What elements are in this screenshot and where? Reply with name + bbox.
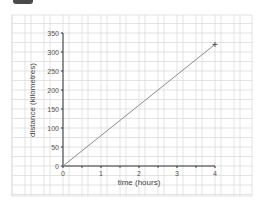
y-tick-label: 150 [47,106,59,113]
x-tick-label: 3 [175,170,179,177]
y-tick-label: 300 [47,49,59,56]
y-tick-label: 50 [51,144,59,151]
x-tick-label: 4 [213,170,217,177]
y-tick-label: 200 [47,87,59,94]
distance-time-chart: 05010015020025030035001234 time (hours) … [0,0,264,207]
x-axis-title: time (hours) [118,178,161,187]
y-tick-label: 0 [55,163,59,170]
y-axis-title: distance (kilometres) [28,63,37,137]
y-tick-label: 350 [47,30,59,37]
y-tick-label: 250 [47,68,59,75]
y-tick-label: 100 [47,125,59,132]
x-tick-label: 0 [61,170,65,177]
x-tick-label: 2 [137,170,141,177]
x-tick-label: 1 [99,170,103,177]
